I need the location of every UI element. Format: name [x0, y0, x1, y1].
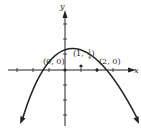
y-axis-label: y [59, 2, 65, 11]
curve-right-arrow-icon [134, 116, 140, 124]
label-vertex: (1, 1 4 ) [73, 48, 95, 60]
x-axis-label: x [134, 66, 139, 75]
point-origin [63, 68, 66, 71]
x-axis: x [8, 66, 139, 75]
svg-text:(1,: (1, [73, 49, 84, 58]
point-vertex [79, 64, 82, 67]
label-origin: (0, 0) [43, 57, 65, 66]
point-root [95, 68, 98, 71]
curve-left-arrow-icon [20, 116, 26, 124]
y-axis-arrow-icon [63, 10, 68, 18]
svg-text:): ) [92, 49, 95, 58]
parabola-chart: x y (0, 0) (1, 1 4 ) (2, 0) [0, 0, 141, 131]
label-root: (2, 0) [99, 57, 121, 66]
